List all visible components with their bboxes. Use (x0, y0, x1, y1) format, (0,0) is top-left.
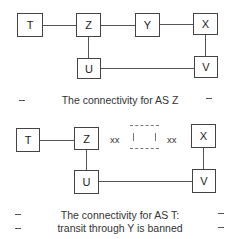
caption-bottom-line1: The connectivity for AS T: (30, 209, 210, 221)
node-x: X (191, 124, 216, 148)
link-u-v (99, 181, 192, 182)
node-v: V (194, 56, 218, 78)
blocked-mark-left: xx (110, 134, 120, 145)
node-u: U (74, 170, 99, 194)
margin-mark (218, 227, 224, 228)
dash-bar (133, 133, 134, 141)
link-x-v (205, 35, 206, 56)
node-z: Z (74, 127, 99, 150)
node-z: Z (76, 13, 101, 37)
margin-mark (218, 213, 224, 214)
margin-mark (15, 214, 21, 215)
caption-top: The connectivity for AS Z (40, 94, 200, 106)
margin-mark (206, 98, 212, 99)
node-u: U (77, 58, 101, 79)
blocked-mark-right: xx (167, 134, 177, 145)
margin-mark (19, 100, 25, 101)
node-t: T (17, 13, 43, 37)
link-z-u (88, 37, 89, 58)
link-x-v (203, 148, 204, 169)
dash-bar (155, 133, 156, 141)
node-x: X (193, 13, 218, 35)
node-v: V (192, 169, 216, 193)
node-y: Y (135, 13, 160, 37)
margin-mark (15, 228, 21, 229)
link-t-z (43, 25, 76, 26)
link-z-y (101, 25, 135, 26)
link-t-z (40, 140, 74, 141)
caption-bottom-line2: transit through Y is banned (30, 222, 210, 234)
link-z-u (86, 150, 87, 170)
node-t: T (16, 128, 40, 152)
link-u-v (101, 68, 194, 69)
link-y-x (160, 24, 193, 25)
